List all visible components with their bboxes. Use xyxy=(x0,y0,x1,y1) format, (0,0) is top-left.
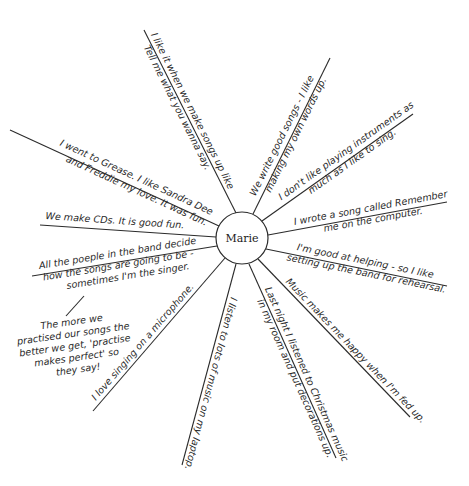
spoke-text: much as I like to sing. xyxy=(306,126,398,196)
branch-connector xyxy=(66,296,84,316)
center-label: Marie xyxy=(225,232,258,245)
spoke-text: I listen to lots of music on my laptop. xyxy=(183,296,240,471)
center-node: Marie xyxy=(216,212,268,264)
spider-diagram: Marie I like it when we make songs up li… xyxy=(0,0,469,486)
spoke-text: Last night I listened to Christmas music xyxy=(263,285,351,464)
spoke-text: I like it when we make songs up like xyxy=(149,31,237,191)
spoke-text: I went to Grease. I like Sandra Dee xyxy=(58,137,215,217)
spoke-text: Tell me what you wanna say. xyxy=(142,43,214,171)
spoke-text: We make CDs. It is good fun. xyxy=(45,210,185,230)
